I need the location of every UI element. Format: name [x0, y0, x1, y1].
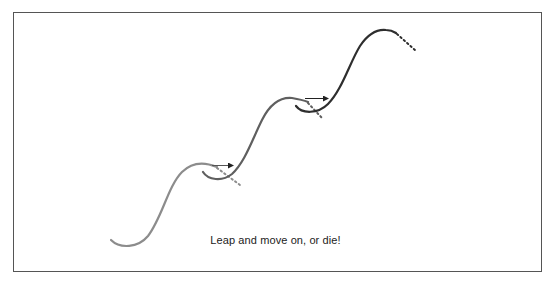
curve-3-decline [397, 34, 415, 50]
diagram-caption: Leap and move on, or die! [0, 234, 551, 246]
curve-3 [296, 30, 415, 112]
